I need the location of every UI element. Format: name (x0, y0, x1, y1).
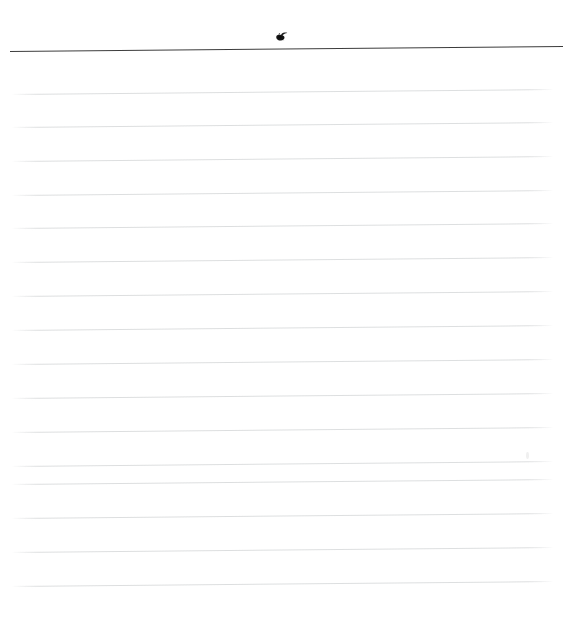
ruled-line (12, 89, 553, 95)
ruled-line (12, 359, 553, 365)
ruled-line (12, 479, 553, 485)
ink-blot-icon (274, 29, 288, 41)
ruled-line (12, 325, 553, 331)
ruled-line (12, 547, 553, 553)
ruled-line (12, 393, 553, 399)
ruled-line (12, 156, 553, 162)
ruled-line (12, 581, 553, 587)
header-rule (10, 45, 563, 51)
ruled-line (12, 122, 553, 128)
ruled-line (12, 461, 553, 467)
ruled-line (12, 257, 553, 263)
ruled-line (12, 427, 553, 433)
scanned-page (0, 0, 578, 638)
scan-speck-artifact (526, 452, 529, 459)
ruled-line (12, 223, 553, 229)
ruled-line (12, 513, 553, 519)
paper-surface (0, 0, 578, 638)
ruled-line (12, 190, 553, 196)
ruled-line (12, 291, 553, 297)
